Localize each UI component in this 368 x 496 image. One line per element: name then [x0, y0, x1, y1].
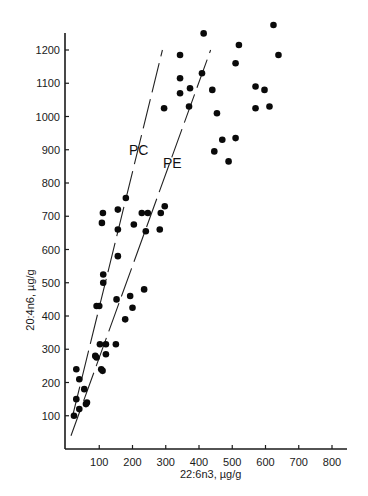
plot-area	[71, 22, 282, 436]
data-point	[270, 22, 277, 29]
data-point	[96, 303, 103, 310]
y-tick-label: 400	[42, 310, 60, 322]
y-tick-label: 1200	[36, 44, 60, 56]
data-point	[200, 30, 207, 37]
y-tick-label: 600	[42, 244, 60, 256]
data-point	[232, 60, 239, 67]
data-point	[115, 226, 122, 233]
data-point	[157, 210, 164, 217]
x-tick-label: 400	[190, 456, 208, 468]
data-point	[275, 52, 282, 59]
y-tick-label: 100	[42, 410, 60, 422]
y-tick-label: 500	[42, 277, 60, 289]
data-point	[76, 376, 83, 383]
data-point	[144, 210, 151, 217]
data-point	[219, 136, 226, 143]
data-point	[252, 105, 259, 112]
data-point	[177, 75, 184, 82]
data-point	[100, 210, 107, 217]
data-point	[186, 103, 193, 110]
data-point	[214, 110, 221, 117]
data-point	[236, 42, 243, 49]
data-point	[115, 253, 122, 260]
y-tick-label: 1100	[36, 77, 60, 89]
data-point	[139, 210, 146, 217]
y-axis-title: 20:4n6, µg/g	[24, 269, 36, 330]
pe-line-label: PE	[163, 155, 182, 171]
y-axis-ticks: 100200300400500600700800900100011001200	[36, 44, 69, 422]
data-point	[156, 226, 163, 233]
data-point	[199, 70, 206, 77]
data-point	[141, 286, 148, 293]
data-point	[161, 105, 168, 112]
data-point	[73, 366, 80, 373]
data-point	[129, 304, 136, 311]
data-point	[143, 228, 150, 235]
y-tick-label: 800	[42, 177, 60, 189]
data-point	[127, 293, 134, 300]
data-point	[123, 195, 130, 202]
x-tick-label: 800	[323, 456, 341, 468]
data-point	[232, 135, 239, 142]
data-point	[100, 271, 107, 278]
data-point	[103, 351, 110, 358]
y-tick-label: 200	[42, 377, 60, 389]
data-point	[209, 87, 216, 94]
x-tick-label: 600	[256, 456, 274, 468]
data-point	[113, 341, 120, 348]
data-point	[99, 368, 106, 375]
data-point	[177, 90, 184, 97]
data-point	[122, 316, 129, 323]
data-point	[211, 148, 218, 155]
data-point	[81, 386, 88, 393]
x-tick-label: 100	[90, 456, 108, 468]
x-tick-label: 700	[290, 456, 308, 468]
data-point	[177, 52, 184, 59]
data-point	[99, 220, 106, 227]
data-point	[115, 206, 122, 213]
data-point	[71, 412, 78, 419]
y-tick-label: 1000	[36, 111, 60, 123]
data-point	[187, 85, 194, 92]
x-tick-label: 500	[223, 456, 241, 468]
data-point	[103, 341, 110, 348]
pc-line-label: PC	[129, 142, 148, 158]
axes: 100200300400500600700800 100200300400500…	[36, 33, 347, 468]
data-point	[266, 103, 273, 110]
data-point	[252, 83, 259, 90]
y-tick-label: 900	[42, 144, 60, 156]
data-point	[97, 341, 104, 348]
y-tick-label: 300	[42, 343, 60, 355]
x-tick-label: 200	[123, 456, 141, 468]
data-point	[161, 203, 168, 210]
scatter-chart: 100200300400500600700800 100200300400500…	[0, 0, 368, 496]
data-point	[261, 87, 268, 94]
data-point	[76, 406, 83, 413]
data-point	[93, 354, 100, 361]
data-point	[225, 158, 232, 165]
x-tick-label: 300	[157, 456, 175, 468]
data-point	[100, 279, 107, 286]
x-axis-title: 22:6n3, µg/g	[180, 468, 241, 480]
data-point	[84, 399, 91, 406]
y-tick-label: 700	[42, 210, 60, 222]
data-point	[131, 221, 138, 228]
data-point	[73, 396, 80, 403]
fit-line-pc	[73, 50, 163, 416]
data-point	[113, 296, 120, 303]
